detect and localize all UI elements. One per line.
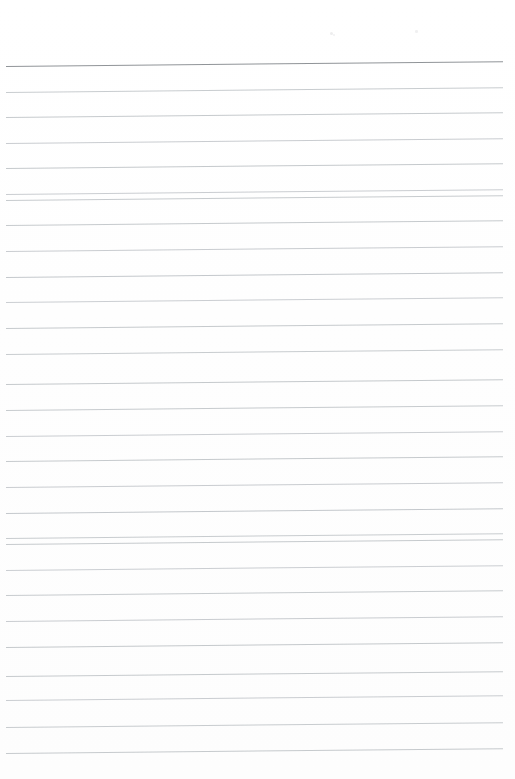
scanned-notebook-page [0,0,515,779]
writing-area[interactable] [0,66,515,756]
page-footer-margin [0,756,515,779]
page-header-margin [0,0,515,66]
